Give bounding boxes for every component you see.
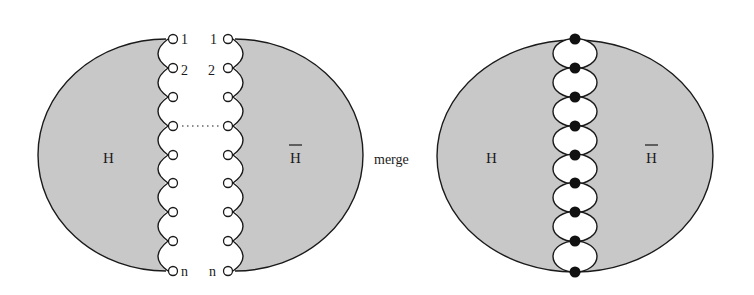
open-port-icon (224, 151, 233, 160)
diagram-canvas: 1 2 n 1 2 n H H merge (0, 0, 754, 295)
open-port-icon (169, 179, 178, 188)
right-port-label-2: 2 (208, 63, 215, 78)
right-port-label-n: n (209, 264, 216, 279)
region-h-left (38, 39, 166, 271)
region-label-h: H (486, 150, 497, 166)
merged-nodes (570, 34, 581, 278)
merged-node-icon (570, 63, 581, 74)
region-label-h: H (103, 150, 114, 166)
left-port-label-n: n (181, 264, 188, 279)
open-port-icon (169, 64, 178, 73)
open-port-icon (224, 267, 233, 276)
region-label-hbar: H (290, 150, 301, 166)
open-port-icon (169, 93, 178, 102)
right-chain-ports (224, 35, 233, 276)
right-port-label-1: 1 (210, 32, 217, 47)
open-port-icon (224, 35, 233, 44)
merged-node-icon (570, 92, 581, 103)
left-chain-ports (169, 35, 178, 276)
left-diagram: 1 2 n 1 2 n H H (38, 32, 363, 279)
left-port-label-1: 1 (181, 32, 188, 47)
open-port-icon (224, 179, 233, 188)
right-diagram: H H (437, 34, 713, 278)
merged-node-icon (570, 236, 581, 247)
merged-node-icon (570, 178, 581, 189)
open-port-icon (169, 151, 178, 160)
left-port-label-2: 2 (181, 63, 188, 78)
open-port-icon (224, 64, 233, 73)
open-port-icon (169, 267, 178, 276)
open-port-icon (169, 237, 178, 246)
open-port-icon (224, 122, 233, 131)
merged-node-icon (570, 150, 581, 161)
open-port-icon (169, 122, 178, 131)
open-port-icon (169, 208, 178, 217)
open-port-icon (224, 93, 233, 102)
merged-node-icon (570, 267, 581, 278)
open-port-icon (224, 237, 233, 246)
region-label-hbar: H (646, 150, 657, 166)
open-port-icon (224, 208, 233, 217)
merged-node-icon (570, 207, 581, 218)
merge-label: merge (374, 152, 409, 167)
merged-node-icon (570, 34, 581, 45)
merged-node-icon (570, 121, 581, 132)
open-port-icon (169, 35, 178, 44)
